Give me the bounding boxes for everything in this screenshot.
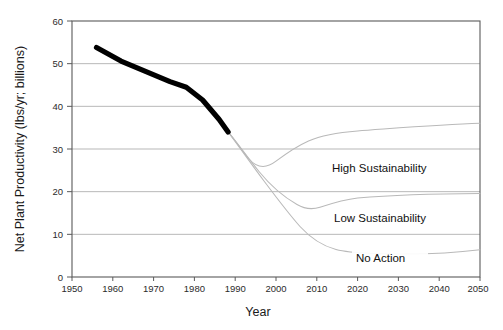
- y-tick-marks: [67, 21, 72, 277]
- y-tick-label-0: 0: [58, 272, 63, 283]
- series-label-high-sustainability-group: High Sustainability: [328, 159, 468, 176]
- x-tick-label-1950: 1950: [61, 283, 82, 294]
- x-tick-label-2010: 2010: [306, 283, 327, 294]
- y-tick-labels: 60 50 40 30 20 10 0: [52, 16, 63, 283]
- series-label-high-sustainability: High Sustainability: [332, 162, 427, 174]
- x-tick-label-1980: 1980: [184, 283, 205, 294]
- plant-productivity-line-chart: 60 50 40 30 20 10 0 1950 1960 1970 1980 …: [0, 0, 503, 330]
- x-tick-labels: 1950 1960 1970 1980 1990 2000 2010 2020 …: [61, 283, 488, 294]
- x-tick-label-2020: 2020: [347, 283, 368, 294]
- y-tick-label-20: 20: [52, 186, 63, 197]
- chart-page: 60 50 40 30 20 10 0 1950 1960 1970 1980 …: [0, 0, 503, 330]
- y-tick-label-40: 40: [52, 101, 63, 112]
- series-label-no-action: No Action: [356, 252, 405, 264]
- x-tick-label-1990: 1990: [225, 283, 246, 294]
- x-axis-title: Year: [245, 305, 270, 319]
- y-axis-title: Net Plant Productivity (lbs/yr; billions…: [13, 46, 27, 252]
- x-tick-label-2050: 2050: [467, 283, 488, 294]
- x-tick-marks: [72, 277, 480, 281]
- x-tick-label-2000: 2000: [265, 283, 286, 294]
- y-tick-label-50: 50: [52, 58, 63, 69]
- x-tick-label-1960: 1960: [102, 283, 123, 294]
- y-tick-label-30: 30: [52, 144, 63, 155]
- x-tick-label-1970: 1970: [143, 283, 164, 294]
- x-tick-label-2040: 2040: [429, 283, 450, 294]
- series-label-low-sustainability: Low Sustainability: [334, 212, 426, 224]
- x-tick-label-2030: 2030: [388, 283, 409, 294]
- series-label-low-sustainability-group: Low Sustainability: [330, 209, 468, 226]
- y-tick-label-60: 60: [52, 16, 63, 27]
- y-tick-label-10: 10: [52, 229, 63, 240]
- series-label-no-action-group: No Action: [352, 249, 428, 266]
